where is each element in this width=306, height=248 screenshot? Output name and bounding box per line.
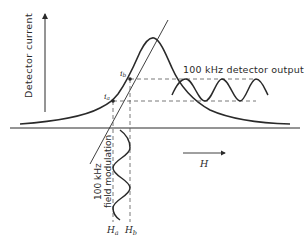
ib-label: ib	[120, 70, 126, 79]
ia-label: ia	[104, 93, 110, 102]
detector-output-label: 100 kHz detector output	[183, 65, 304, 75]
field-modulation-wave	[113, 130, 130, 220]
y-axis-label: Detector current	[24, 13, 34, 98]
ha-label: Ha	[107, 226, 119, 236]
point-ib	[128, 77, 132, 81]
resonance-curve	[20, 38, 290, 124]
field-modulation-label-line1: 100 kHz	[94, 163, 103, 200]
field-modulation-label-line2: field modulation	[104, 135, 113, 208]
resonance-diagram	[0, 0, 306, 248]
h-axis-label: H	[200, 159, 208, 169]
point-ia	[111, 99, 115, 103]
hb-label: Hb	[125, 226, 137, 236]
